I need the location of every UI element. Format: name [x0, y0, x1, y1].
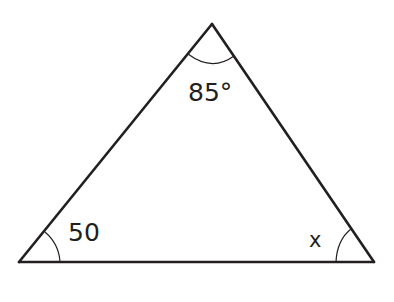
angle-label-apex: 85°	[188, 78, 232, 107]
angle-arc-apex	[188, 54, 234, 64]
angle-arc-bottom-right	[336, 229, 351, 262]
angle-arc-bottom-left	[45, 232, 60, 262]
angle-label-bottom-left: 50	[68, 218, 100, 247]
edge-right	[212, 24, 374, 262]
edge-left	[19, 24, 212, 262]
triangle-diagram: 85° 50 x	[0, 0, 394, 302]
angle-label-bottom-right: x	[309, 228, 321, 252]
